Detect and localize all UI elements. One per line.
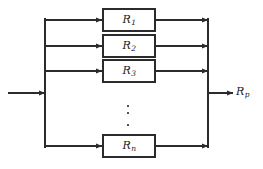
block-symbol-r1: R — [122, 13, 130, 26]
ellipsis-dot-3 — [127, 124, 129, 126]
block-symbol-rn: R — [122, 139, 130, 152]
output-symbol: R — [236, 85, 244, 98]
output-subscript: p — [245, 90, 250, 99]
block-subscript-rn: n — [131, 144, 136, 153]
ellipsis-dot-1 — [127, 105, 129, 107]
block-subscript-r1: 1 — [131, 18, 136, 27]
block-label-r2: R2 — [103, 40, 155, 51]
ellipsis-dot-2 — [127, 112, 129, 114]
block-label-r3: R3 — [103, 65, 155, 76]
block-subscript-r3: 3 — [131, 69, 136, 78]
block-label-rn: Rn — [103, 140, 155, 151]
block-subscript-r2: 2 — [131, 44, 136, 53]
block-symbol-r3: R — [122, 64, 130, 77]
reliability-block-diagram: R1 R2 R3 Rn Rp — [0, 0, 263, 169]
block-symbol-r2: R — [122, 39, 130, 52]
block-label-r1: R1 — [103, 14, 155, 25]
output-label: Rp — [236, 86, 249, 97]
